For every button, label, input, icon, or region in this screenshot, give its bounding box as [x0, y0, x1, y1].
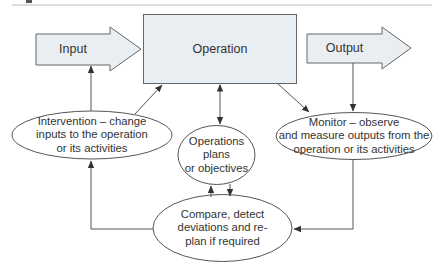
intervention-line-3: or its activities: [57, 142, 128, 155]
caption-fragment: [26, 0, 32, 3]
compare-line-3: plan if required: [185, 235, 260, 248]
monitor-line-1: Monitor – observe: [309, 116, 399, 129]
output-label: Output: [307, 34, 382, 63]
intervention-line-1: Intervention – change: [38, 115, 147, 128]
compare-line-2: deviations and re-: [178, 221, 268, 234]
plans-label: Operations plans or objectives: [178, 127, 255, 183]
arrow-operation-to-monitor: [278, 84, 309, 112]
arrow-compare-to-intervention: [91, 161, 153, 229]
monitor-label: Monitor – observe and measure outputs fr…: [276, 113, 432, 159]
arrow-intervention-to-operation: [135, 85, 162, 114]
plans-line-3: or objectives: [185, 162, 248, 175]
input-label: Input: [36, 34, 110, 65]
compare-label: Compare, detect deviations and re- plan …: [155, 196, 290, 260]
monitor-line-2: and measure outputs from the: [279, 129, 430, 142]
intervention-label: Intervention – change inputs to the oper…: [14, 112, 170, 158]
control-loop-diagram: Input Operation Output Intervention – ch…: [0, 0, 443, 269]
intervention-line-2: inputs to the operation: [36, 128, 148, 141]
compare-line-1: Compare, detect: [181, 208, 265, 221]
plans-line-1: Operations: [189, 135, 244, 148]
plans-line-2: plans: [203, 148, 230, 161]
arrow-monitor-to-compare: [294, 160, 353, 229]
operation-label: Operation: [144, 15, 296, 83]
monitor-line-3: operation or its activities: [293, 143, 414, 156]
